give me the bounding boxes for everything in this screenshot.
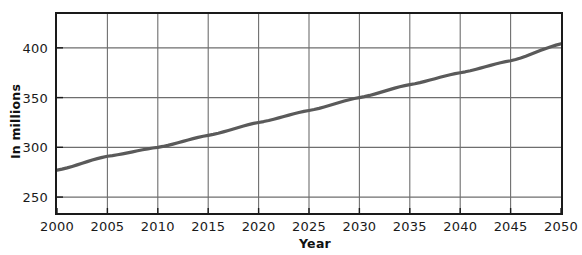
y-tick-label: 300: [23, 140, 48, 155]
x-tick-label: 2040: [443, 219, 477, 234]
x-tick-label: 2015: [191, 219, 225, 234]
x-tick-label: 2050: [544, 219, 578, 234]
y-tick-label: 250: [23, 190, 48, 205]
x-axis-title: Year: [0, 236, 582, 251]
x-tick-label: 2025: [292, 219, 326, 234]
vertical-gridlines: [107, 14, 510, 213]
x-tick-label: 2010: [141, 219, 175, 234]
plot-area: [55, 12, 563, 215]
y-tick-label: 350: [23, 90, 48, 105]
grid-and-series: [57, 14, 561, 213]
x-tick-label: 2020: [242, 219, 276, 234]
y-axis-title: In millions: [8, 77, 23, 167]
x-tick-label: 2045: [494, 219, 528, 234]
line-chart: 400 350 300 250 In millions 200020052010…: [0, 0, 582, 255]
x-tick-label: 2005: [90, 219, 124, 234]
y-tick-label: 400: [23, 40, 48, 55]
x-tick-label: 2035: [393, 219, 427, 234]
x-tick-label: 2000: [40, 219, 74, 234]
x-tick-label: 2030: [342, 219, 376, 234]
